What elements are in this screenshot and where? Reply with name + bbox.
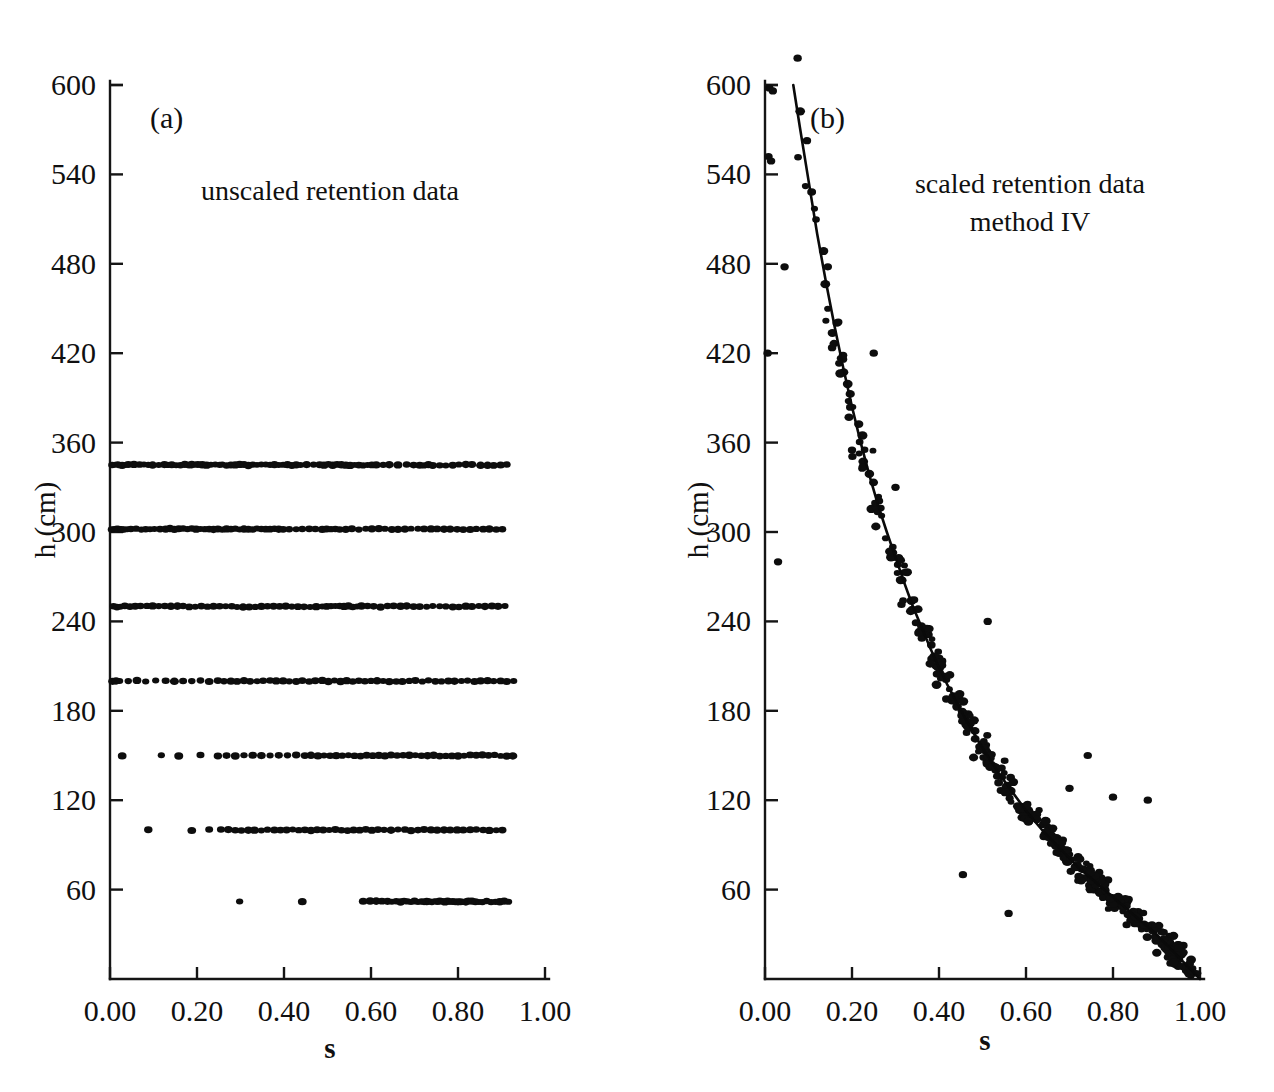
data-point [994, 779, 1003, 787]
y-tick-label: 420 [51, 336, 96, 369]
x-tick-label: 0.60 [345, 994, 398, 1027]
data-point [503, 461, 511, 468]
x-tick-label: 0.00 [84, 994, 137, 1027]
data-point [302, 461, 311, 468]
data-point-outlier [1084, 752, 1092, 759]
data-point [969, 754, 978, 762]
x-tick-label: 0.20 [171, 994, 224, 1027]
data-point-outlier [1004, 910, 1012, 917]
data-point [502, 678, 511, 685]
data-point [450, 678, 459, 685]
y-tick-label: 120 [706, 783, 751, 816]
data-point [442, 603, 450, 609]
data-point [498, 827, 506, 834]
data-point [174, 752, 183, 759]
y-axis-title: h (cm) [682, 482, 715, 559]
data-point [285, 526, 293, 532]
data-point [929, 636, 936, 642]
data-point [298, 898, 307, 905]
data-point-outlier [891, 484, 899, 491]
data-point [224, 826, 233, 833]
data-point [179, 678, 187, 685]
data-point [1076, 856, 1084, 863]
data-point [223, 752, 231, 759]
data-point [468, 461, 477, 468]
data-point [902, 568, 912, 576]
data-point [231, 752, 240, 759]
data-point-outlier [767, 157, 775, 164]
x-axis-title: s [979, 1024, 990, 1056]
data-point [257, 752, 266, 759]
y-tick-label: 480 [706, 247, 751, 280]
y-tick-label: 240 [706, 604, 751, 637]
data-point [472, 526, 480, 532]
data-point [170, 678, 179, 686]
data-point [394, 461, 403, 468]
panel-b-scaled: 601201802403003604204805406000.000.200.4… [620, 0, 1260, 1092]
data-point [411, 677, 419, 684]
panel-a-plot: 601201802403003604204805406000.000.200.4… [0, 0, 640, 1092]
data-point [508, 752, 517, 759]
data-point [259, 677, 267, 684]
data-point [386, 826, 395, 833]
data-point [403, 461, 411, 467]
panel-letter-a: (a) [150, 101, 183, 135]
x-axis-title: s [324, 1032, 335, 1064]
x-tick-label: 0.40 [258, 994, 311, 1027]
data-point [472, 826, 480, 832]
panel-annotation: method IV [970, 206, 1091, 237]
data-point-outlier [870, 350, 878, 357]
data-point [264, 827, 272, 833]
y-tick-label: 240 [51, 604, 96, 637]
x-tick-label: 1.00 [1174, 994, 1227, 1027]
y-tick-label: 60 [66, 873, 96, 906]
x-tick-label: 0.80 [1087, 994, 1140, 1027]
panel-annotation: unscaled retention data [201, 175, 460, 206]
data-point-outlier [774, 558, 782, 565]
y-tick-label: 540 [706, 157, 751, 190]
data-point [285, 678, 293, 684]
data-point [844, 413, 853, 421]
data-point [498, 526, 506, 532]
data-point [1077, 877, 1086, 885]
data-point [1152, 949, 1161, 957]
y-tick-label: 120 [51, 783, 96, 816]
y-tick-label: 180 [706, 694, 751, 727]
panel-a-scatter-layer [108, 461, 518, 906]
data-point [429, 603, 436, 609]
data-point [1122, 921, 1130, 928]
data-point [246, 678, 254, 685]
data-point [1008, 799, 1015, 805]
data-point [1041, 817, 1051, 825]
y-tick-label: 180 [51, 694, 96, 727]
data-point-outlier [1109, 794, 1117, 801]
data-point [464, 677, 472, 683]
data-point-outlier [1065, 785, 1073, 792]
data-point [217, 826, 225, 833]
data-point [275, 752, 283, 759]
data-point [822, 318, 829, 324]
data-point [355, 526, 363, 532]
data-point [292, 751, 301, 758]
data-point [196, 752, 204, 759]
data-point [794, 154, 802, 161]
data-point [899, 597, 907, 604]
x-tick-label: 0.00 [739, 994, 792, 1027]
data-point [510, 678, 517, 684]
data-point-outlier [780, 263, 788, 270]
y-tick-label: 360 [706, 426, 751, 459]
data-point [248, 752, 257, 759]
data-point [376, 603, 385, 610]
data-point [926, 660, 935, 668]
data-point [967, 713, 974, 719]
data-point [803, 137, 811, 144]
data-point [240, 752, 247, 758]
data-point [416, 603, 424, 610]
data-point [1169, 959, 1179, 967]
data-point-outlier [793, 55, 801, 62]
data-point-outlier [984, 618, 992, 625]
data-point-outlier [763, 350, 771, 357]
data-point [468, 603, 477, 610]
y-tick-label: 540 [51, 157, 96, 190]
data-point [1059, 840, 1066, 846]
